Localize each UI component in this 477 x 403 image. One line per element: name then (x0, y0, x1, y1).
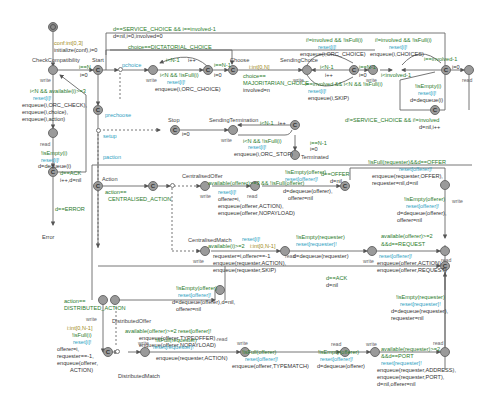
location-start[interactable] (93, 65, 103, 75)
label-req-write: write (363, 258, 374, 264)
branch-distributed[interactable] (115, 349, 120, 354)
label-port-reset: reset[requester]! (381, 360, 422, 366)
label-top-guard: d==SERVICE_CHOICE && i==involved-1 (113, 26, 216, 32)
label-read: read (40, 141, 50, 147)
location-choices-loop[interactable] (441, 65, 451, 75)
label-paction: paction (103, 154, 121, 160)
location-sending-choice-loop[interactable] (349, 65, 359, 75)
branch-setup[interactable] (96, 128, 101, 133)
location-termination-loop[interactable] (290, 120, 300, 130)
name-check-compatibility: CheckCompatibility (32, 57, 80, 63)
label-req-guard1: available(offerer)>=2 (381, 233, 433, 239)
label-cm-read-guard: !isEmpty(requester) (296, 234, 345, 240)
label-ack-update: i++,d=nil (60, 177, 81, 183)
label-co-read: read (247, 193, 257, 199)
label-right-guard: !isEmpty(i) (415, 83, 441, 89)
label-term-enqueue: enqueue(i,ORC_STOP) (234, 151, 293, 157)
label-dm-reset: reset[requester]! (153, 344, 194, 350)
label-top-update: d=nil,i=0,involved=0 (113, 33, 163, 39)
location-right-svc[interactable] (430, 105, 440, 115)
location-req-read[interactable] (440, 246, 450, 256)
label-loop1-guard: i<N-1 (166, 57, 180, 63)
label-co-read-upd1: d=dequeue(offerer), (283, 188, 333, 194)
label-action-guard1: action== (105, 189, 126, 195)
label-right-reset: reset[i]! (418, 90, 436, 96)
location-action[interactable] (93, 181, 103, 191)
location-req-write[interactable] (367, 246, 377, 256)
label-majoritarian-update: involved=n (243, 87, 270, 93)
label-do-read-upd2: offerer=nil (176, 306, 201, 312)
label-term-fin-update: i=0 (310, 146, 318, 152)
location-stop[interactable] (170, 125, 180, 135)
label-dist-upd2: requester==-1, (57, 353, 94, 359)
label-sc-guard-top: i!=involved && !isFull(i) (306, 37, 363, 43)
label-dist-upd4: ACTION) (70, 367, 93, 373)
label-cm-upd1: requester=i,offerer==-1 (213, 253, 270, 259)
label-dm3-read: read (331, 341, 341, 347)
location-sending-choice[interactable] (302, 65, 312, 75)
location-prechoose[interactable] (93, 105, 103, 115)
label-dm-write: write (138, 340, 149, 346)
location-right-read[interactable] (464, 65, 474, 75)
label-rt-read-upd1: d=dequeue(offerer), (397, 210, 447, 216)
label-read-upd: d=dequeue(i) (38, 163, 71, 169)
label-dist-select: i:int[0,N-1] (67, 325, 93, 331)
label-req-upd1: enqueue(offerer,ACTION), (377, 260, 443, 266)
branch-centralised[interactable] (170, 183, 175, 188)
location-choice-loop[interactable] (203, 65, 213, 75)
label-choices-write: write (366, 77, 377, 83)
label-cm-read-upd: d=dequeue(requester) (293, 253, 349, 259)
label-cm-guard: available(i)>=2 (208, 243, 245, 249)
label-ret-reset: reset[requester]! (400, 301, 441, 307)
label-ch-reset: reset[i]! (389, 44, 407, 50)
name-error: Error (42, 234, 54, 240)
location-distributed-write[interactable] (98, 295, 108, 305)
name-distributed-offer: DistributedOffer (112, 318, 151, 324)
label-sc-reset-top: reset[i]! (318, 44, 336, 50)
label-do-read-reset: reset[offerer]! (178, 292, 211, 298)
label-init-select: conf:int[0,3] (54, 40, 83, 46)
label-co-write: write (200, 193, 211, 199)
location-read-after-check[interactable] (48, 128, 58, 138)
label-rt-reset: reset[offerer]! (399, 166, 432, 172)
location-distributed-offer[interactable] (110, 295, 120, 305)
initial-location[interactable] (48, 22, 58, 32)
label-init-update: initialize(conf),i=0 (54, 47, 97, 53)
location-centralised[interactable] (148, 181, 158, 191)
label-port-write: write (366, 341, 377, 347)
label-port-guard1: available(requester)>=2 (381, 346, 440, 352)
label-cm-write: write (193, 258, 204, 264)
label-req-read: read (441, 257, 451, 263)
label-dist-guard2: DISTRIBUTED_ACTION (64, 305, 126, 311)
location-choice-write[interactable] (148, 65, 158, 75)
label-error-guard: d==ERROR (55, 206, 85, 212)
label-ret-guard: !isEmpty(requester) (396, 294, 445, 300)
location-port-write[interactable] (370, 347, 380, 357)
label-svc-guard: d!=SERVICE_CHOICE && i!=involved (345, 117, 439, 123)
automaton-diagram: conf:int[0,3] initialize(conf),i=0 Check… (0, 0, 477, 403)
label-do-read-guard: !isEmpty(offerer) (176, 285, 217, 291)
location-distributed-match[interactable] (140, 347, 150, 357)
name-sending-choice: SendingChoice (280, 57, 318, 63)
label-loop1-guard2: i<N && !isFull(i) (160, 72, 199, 78)
location-check-compatibility[interactable] (48, 65, 58, 75)
location-sending-termination[interactable] (228, 125, 238, 135)
location-rt-write[interactable] (440, 180, 450, 190)
label-offer-update: d=nil (330, 178, 342, 184)
label-port-upd1: enqueue(requester,ADDRESS), (377, 367, 456, 373)
label-dm2-write: write (237, 340, 248, 346)
label-dm3-guard: !isEmpty(offerer) (318, 349, 359, 355)
label-ret-upd1: d=dequeue(requester), (391, 308, 448, 314)
label-term-write: write (221, 137, 232, 143)
label-majoritarian-select: i:int[0,N] (249, 64, 270, 70)
location-distributed-c[interactable] (103, 347, 113, 357)
label-ack-guard: d==ACK (60, 170, 81, 176)
label-choose-update: i=0 (214, 72, 222, 78)
label-cm-upd3: enqueue(requester,SKIP) (213, 267, 276, 273)
label-sc-enqueue-bottom: enqueue(i,SKIP) (308, 95, 349, 101)
label-port-read: read (433, 340, 443, 346)
location-port-read[interactable] (440, 347, 450, 357)
label-check-reset: reset[i]! (33, 95, 51, 101)
label-dist-reset: reset[i]! (73, 339, 91, 345)
label-co-upd1: offerer=i, (218, 196, 240, 202)
